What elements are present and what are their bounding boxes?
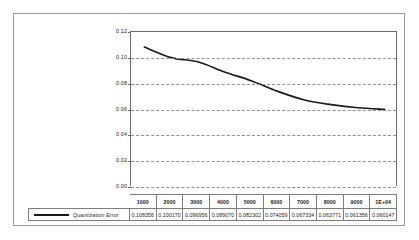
gridline [131,161,396,162]
y-axis-tick-mark [128,161,131,162]
y-axis-tick-label: 0.12 [97,29,127,34]
x-axis-category-label: 1E+04 [370,194,397,208]
legend-label: Quantization Error [73,212,119,218]
data-table-cell: 0.060147 [370,208,397,221]
data-table-cell: 0.067334 [290,208,317,221]
y-axis-tick-mark [128,32,131,33]
y-axis-tick-label: 0.04 [97,132,127,137]
data-table-cell: 0.089070 [210,208,237,221]
y-axis-tick-label: 0.02 [97,158,127,163]
data-table-cell: 0.074059 [264,208,291,221]
plot-area: 0.120.100.080.060.040.020.00 [130,31,397,186]
data-table-cell: 0.108356 [130,208,157,221]
x-axis-category-label: 3000 [183,194,210,208]
data-table-cell: 0.096956 [183,208,210,221]
y-axis-tick-label: 0.00 [97,184,127,189]
y-axis-tick-mark [128,187,131,188]
x-axis-category-label: 8000 [317,194,344,208]
data-table-cell: 0.063771 [317,208,344,221]
chart-frame: 0.120.100.080.060.040.020.00 10002000300… [13,13,405,226]
gridline [131,110,396,111]
data-table-cell: 0.082302 [237,208,264,221]
y-axis-tick-mark [128,58,131,59]
chart-page: 0.120.100.080.060.040.020.00 10002000300… [0,0,419,240]
data-table: 1000200030004000500060007000800090001E+0… [28,194,397,225]
y-axis-tick-mark [128,135,131,136]
gridline [131,135,396,136]
x-axis-category-label: 6000 [264,194,291,208]
x-axis-category-label: 1000 [130,194,157,208]
gridline [131,84,396,85]
gridline [131,58,396,59]
x-axis-category-label: 7000 [290,194,317,208]
legend-line-swatch [34,214,69,216]
y-axis-tick-mark [128,110,131,111]
header-legend-spacer [28,194,130,208]
legend-entry-quantization-error: Quantization Error [28,208,130,221]
plot-region: 0.120.100.080.060.040.020.00 [110,31,397,194]
x-axis-category-label: 5000 [237,194,264,208]
x-axis-category-label: 2000 [157,194,184,208]
data-table-cell: 0.061356 [344,208,371,221]
x-axis-category-label: 9000 [344,194,371,208]
data-table-cell: 0.100170 [157,208,184,221]
gridline [131,187,396,188]
y-axis-tick-label: 0.10 [97,55,127,60]
y-axis-tick-mark [128,84,131,85]
data-table-value-row: Quantization Error 0.1083560.1001700.096… [28,208,397,221]
y-axis-tick-label: 0.08 [97,81,127,86]
data-table-header-row: 1000200030004000500060007000800090001E+0… [28,194,397,208]
y-axis-tick-label: 0.06 [97,107,127,112]
x-axis-category-label: 4000 [210,194,237,208]
